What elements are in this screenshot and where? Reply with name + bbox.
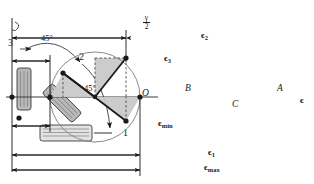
gamma-numerator: γ: [143, 14, 150, 21]
strain-rosette-mohr-circle-figure: 3 2 1 45° 45°: [0, 0, 314, 184]
gamma-denominator: 2: [143, 23, 150, 30]
shade-region-gauge-1: [95, 97, 140, 121]
state-point-gauge-3: [60, 70, 65, 75]
dim-label-epsilon-max: ϵmax: [204, 163, 220, 173]
horizontal-axis-label: ϵ: [300, 96, 304, 105]
dim-label-epsilon-3: ϵ3: [164, 54, 171, 64]
shear-sense-curl-icon: [12, 22, 19, 31]
dim-label-epsilon-min: ϵmin: [158, 119, 173, 129]
point-label-A: A: [277, 84, 283, 94]
shade-region-gauge-3: [50, 73, 95, 97]
point-label-B: B: [185, 84, 191, 94]
axis-point-O: [9, 94, 14, 99]
dim-label-epsilon-2: ϵ2: [201, 31, 208, 41]
axis-point-C: [93, 95, 97, 99]
mohr-circle-diagram: γ 2 ϵ O B C A ϵ2 ϵ3 ϵmin ϵ1 ϵmax: [140, 0, 314, 184]
state-point-gauge-1: [123, 118, 128, 123]
dim-label-epsilon-1: ϵ1: [208, 148, 215, 158]
point-label-O: O: [142, 89, 149, 99]
point-label-C: C: [232, 100, 238, 110]
vertical-axis-label: γ 2: [143, 14, 150, 30]
